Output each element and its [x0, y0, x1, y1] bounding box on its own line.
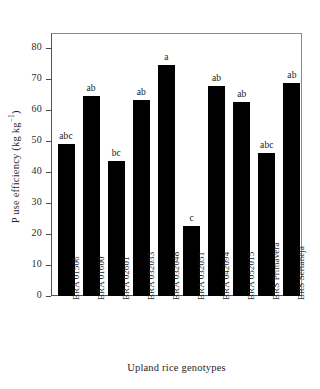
- x-axis: BRA 01506BRA 01600BRA 02601BRA 032033BRA…: [51, 296, 302, 358]
- bar-significance-label: c: [175, 213, 208, 223]
- x-axis-tick-label-text: BRA 01506: [71, 256, 81, 300]
- x-axis-tick-label-text: BRA 042094: [221, 252, 231, 300]
- y-axis-tick-label: 10: [32, 258, 42, 269]
- caption-clipped: [4, 381, 254, 389]
- bar-significance-label: abc: [250, 140, 283, 150]
- bar-significance-label: abc: [50, 131, 83, 141]
- y-axis-title-main: P use efficiency (kg kg: [10, 122, 21, 223]
- x-axis-title: Upland rice genotypes: [51, 362, 302, 373]
- y-axis-tick-label: 0: [37, 289, 42, 300]
- y-axis-tick-label: 80: [32, 41, 42, 52]
- y-axis-tick-label: 40: [32, 165, 42, 176]
- x-axis-tick-label-text: BRA 052015: [246, 252, 256, 300]
- x-axis-tick-label-text: BRA 032033: [146, 252, 156, 300]
- bar-significance-label: ab: [275, 70, 308, 80]
- y-axis-title-tail: ): [10, 110, 21, 114]
- bar-significance-label: ab: [200, 73, 233, 83]
- y-axis-tick-label: 70: [32, 72, 42, 83]
- bar-significance-label: ab: [125, 87, 158, 97]
- x-axis-tick-label-text: BRA 02601: [121, 256, 131, 300]
- x-axis-tick-label-text: BRA 032048: [171, 252, 181, 300]
- bar-significance-label: bc: [100, 148, 133, 158]
- bar-significance-label: ab: [75, 83, 108, 93]
- bar-chart-figure: P use efficiency (kg kg−1) 0102030405060…: [0, 0, 320, 389]
- bar-significance-label: ab: [225, 89, 258, 99]
- x-axis-tick-label-text: BRS Primavera: [271, 242, 281, 300]
- x-axis-tick-label-text: BRS Sertaneja: [296, 246, 306, 300]
- x-axis-tick-label-text: BRA 032051: [196, 252, 206, 300]
- y-axis: P use efficiency (kg kg−1) 0102030405060…: [0, 0, 51, 389]
- x-axis-tick-label-text: BRA 01600: [96, 256, 106, 300]
- y-axis-tick-label: 30: [32, 196, 42, 207]
- y-axis-title-exponent: −1: [7, 114, 16, 122]
- bar-significance-label: a: [150, 52, 183, 62]
- y-axis-title: P use efficiency (kg kg−1): [7, 67, 21, 267]
- y-axis-tick-label: 50: [32, 134, 42, 145]
- y-axis-tick-label: 60: [32, 103, 42, 114]
- y-axis-tick-label: 20: [32, 227, 42, 238]
